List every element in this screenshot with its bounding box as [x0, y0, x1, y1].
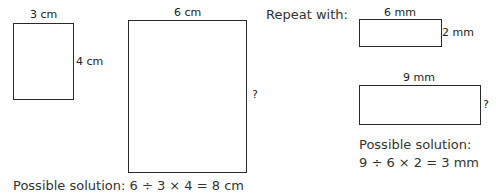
right-solution-line2: 9 ÷ 6 × 2 = 3 mm: [359, 155, 479, 170]
repeat-heading: Repeat with:: [266, 7, 348, 22]
small-rect-height-label: 4 cm: [76, 56, 103, 68]
small-rect-width-label: 3 cm: [30, 9, 57, 21]
large-rectangle-cm: [128, 20, 247, 173]
large-rect-height-label: ?: [252, 89, 258, 101]
left-solution-text: Possible solution: 6 ÷ 3 × 4 = 8 cm: [13, 178, 244, 193]
large-rectangle-mm: [359, 85, 481, 125]
mm-small-rect-height-label: 2 mm: [442, 27, 474, 39]
right-solution-line1: Possible solution:: [359, 137, 471, 152]
mm-small-rect-width-label: 6 mm: [384, 7, 416, 19]
small-rectangle-mm: [359, 19, 442, 47]
mm-large-rect-width-label: 9 mm: [403, 72, 435, 84]
small-rectangle-cm: [13, 23, 74, 100]
mm-large-rect-height-label: ?: [483, 99, 489, 111]
large-rect-width-label: 6 cm: [174, 7, 201, 19]
